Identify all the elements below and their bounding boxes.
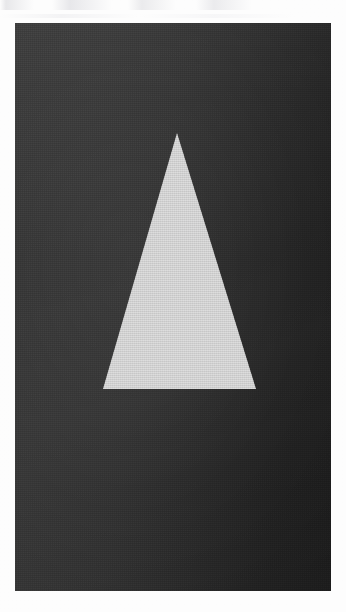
triangle-polygon <box>103 133 256 389</box>
scanned-page <box>0 0 346 612</box>
triangle-shape <box>15 23 331 591</box>
photo-panel <box>15 23 331 591</box>
scanner-streak-artifact <box>0 0 346 10</box>
scanner-streak-artifact-secondary <box>0 14 346 18</box>
